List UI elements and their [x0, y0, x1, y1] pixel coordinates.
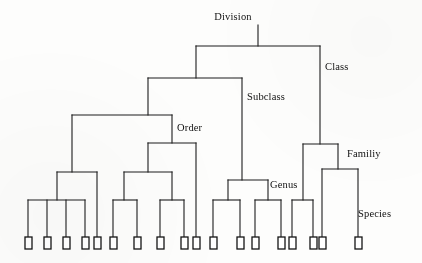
hierarchy-tree-svg: DivisionClassSubclassOrderFamiliyGenusSp… [0, 0, 422, 263]
species-node-species-16 [310, 237, 317, 249]
rank-label-familiy: Familiy [347, 148, 381, 159]
species-node-species-7 [134, 237, 141, 249]
species-node-species-10 [193, 237, 200, 249]
rank-label-subclass: Subclass [247, 91, 285, 102]
rank-label-order: Order [177, 122, 203, 133]
species-node-species-14 [278, 237, 285, 249]
species-node-species-3 [63, 237, 70, 249]
rank-label-division: Division [214, 11, 252, 22]
species-node-species-9 [181, 237, 188, 249]
leaf-connector-stems [28, 200, 313, 237]
species-leaf-boxes [25, 237, 362, 249]
species-node-species-11 [210, 237, 217, 249]
rank-label-genus: Genus [270, 179, 298, 190]
species-node-species-15 [289, 237, 296, 249]
species-node-species-1 [25, 237, 32, 249]
species-node-species-12 [237, 237, 244, 249]
species-node-species-17 [319, 237, 326, 249]
species-node-species-13 [252, 237, 259, 249]
species-node-species-2 [44, 237, 51, 249]
taxonomy-diagram: DivisionClassSubclassOrderFamiliyGenusSp… [0, 0, 422, 263]
species-node-species-6 [110, 237, 117, 249]
rank-label-group: DivisionClassSubclassOrderFamiliyGenusSp… [177, 11, 391, 219]
species-node-species-5 [94, 237, 101, 249]
rank-label-species: Species [358, 208, 391, 219]
species-node-species-8 [157, 237, 164, 249]
species-node-species-4 [82, 237, 89, 249]
rank-label-class: Class [325, 61, 349, 72]
species-node-species-18 [355, 237, 362, 249]
